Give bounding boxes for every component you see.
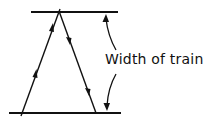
arrow-up-icon: [49, 23, 54, 32]
arrowhead-up-icon: [103, 14, 110, 22]
arrow-up-icon: [33, 69, 38, 78]
width-arrow-bottom: [107, 74, 116, 106]
right-leg-downward-path: [59, 11, 96, 113]
left-leg-upward-path: [21, 9, 60, 116]
arrowhead-down-icon: [104, 103, 111, 111]
width-of-train-label: Width of train: [105, 51, 203, 67]
width-arrow-top: [106, 19, 116, 50]
